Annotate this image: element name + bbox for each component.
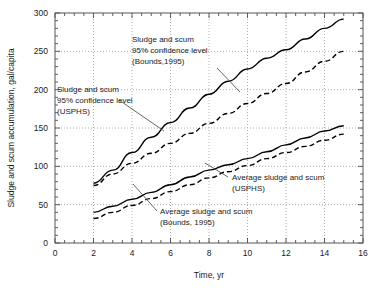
annotation-line: 95% confidence level [132,46,208,55]
annotation-line: (USPHS) [57,107,90,116]
annotation-line: Average sludge and scum [160,207,253,216]
annotation-line: Average sludge and scum [232,173,325,182]
sludge-scum-accumulation-chart: 0246810121416 050100150200250300 Time, y… [0,0,378,290]
x-tick-label: 14 [320,248,330,258]
y-tick-label: 300 [34,8,48,18]
x-tick-label: 10 [243,248,253,258]
annotation-line: (USPHS) [232,184,265,193]
x-tick-label: 0 [53,248,58,258]
y-tick-label: 0 [43,238,48,248]
chart-figure: 0246810121416 050100150200250300 Time, y… [0,0,378,290]
x-tick-label: 4 [130,248,135,258]
x-tick-label: 6 [168,248,173,258]
annotation-line: Sludge and scum [57,85,119,94]
y-tick-label: 100 [34,161,48,171]
y-tick-label: 250 [34,46,48,56]
x-tick-label: 12 [281,248,291,258]
x-axis-title: Time, yr [194,270,225,280]
y-axis-title: Sludge and scum accumulation, gal/capita [6,48,16,208]
y-tick-label: 150 [34,123,48,133]
y-tick-label: 50 [39,200,49,210]
annotation-line: (Bounds,1995) [132,57,185,66]
annotation-line: 95% confidence level [57,96,133,105]
x-tick-label: 16 [358,248,368,258]
annotation-line: (Bounds, 1995) [160,218,215,227]
x-tick-label: 2 [91,248,96,258]
annotation-line: Sludge and scum [132,35,194,44]
y-tick-label: 200 [34,85,48,95]
x-tick-label: 8 [207,248,212,258]
